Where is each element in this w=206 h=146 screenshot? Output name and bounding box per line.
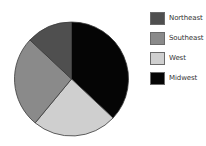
legend-swatch-west — [150, 52, 165, 65]
legend-swatch-southeast — [150, 32, 165, 45]
legend-item-midwest: Midwest — [150, 72, 206, 86]
legend-label-midwest: Midwest — [169, 74, 197, 83]
legend-item-west: West — [150, 52, 206, 66]
legend: Northeast Southeast West Midwest — [150, 12, 206, 92]
pie-slices — [15, 22, 129, 136]
legend-label-west: West — [169, 54, 186, 63]
legend-item-northeast: Northeast — [150, 12, 206, 26]
legend-item-southeast: Southeast — [150, 32, 206, 46]
legend-swatch-northeast — [150, 12, 165, 25]
legend-label-southeast: Southeast — [169, 34, 203, 43]
legend-label-northeast: Northeast — [169, 14, 203, 23]
legend-swatch-midwest — [150, 72, 165, 85]
